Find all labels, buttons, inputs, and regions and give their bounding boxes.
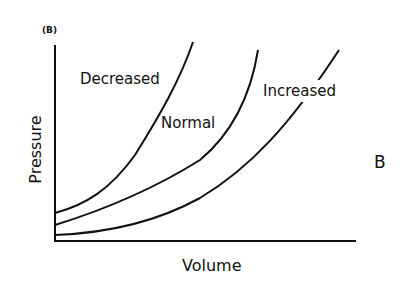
- side-label: B: [374, 152, 386, 172]
- label-increased: Increased: [263, 82, 336, 100]
- label-decreased: Decreased: [80, 70, 160, 88]
- y-axis-label: Pressure: [26, 113, 45, 187]
- label-normal: Normal: [161, 114, 215, 132]
- x-axis-label: Volume: [182, 256, 242, 275]
- pressure-volume-chart: [0, 0, 410, 288]
- panel-tag: (B): [42, 25, 57, 35]
- pressure-volume-figure: (B) Decreased Normal Increased B Volume …: [0, 0, 410, 288]
